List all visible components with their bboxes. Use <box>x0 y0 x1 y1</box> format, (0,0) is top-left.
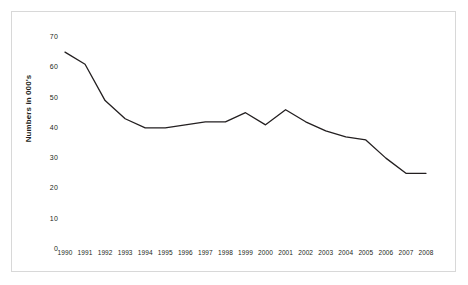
line-series-path <box>65 52 426 173</box>
plot-area: Numbers in 000's 010203040506070 1990199… <box>12 12 457 273</box>
chart-figure: Numbers in 000's 010203040506070 1990199… <box>11 11 456 272</box>
line-series-svg <box>12 12 457 273</box>
